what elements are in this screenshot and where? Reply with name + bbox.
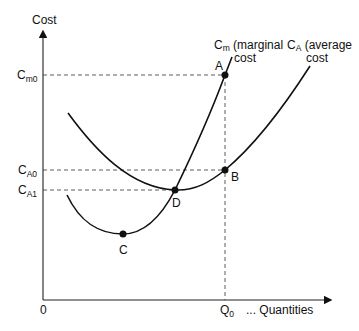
cost-curve-diagram: A B C D Cost 0 ... Quantities Q0 Cm0 CA0… <box>0 0 359 331</box>
point-c-label: C <box>119 243 128 257</box>
average-cost-curve <box>68 66 310 190</box>
origin-label: 0 <box>40 303 47 317</box>
ca1-tick-label: CA1 <box>18 183 37 199</box>
point-b-marker <box>222 167 229 174</box>
q0-tick-label: Q0 <box>220 303 234 319</box>
marginal-cost-label-line2: cost <box>234 51 257 65</box>
y-axis-label: Cost <box>32 13 57 27</box>
ca0-tick-label: CA0 <box>18 163 37 179</box>
point-d-marker <box>172 187 179 194</box>
point-c-marker <box>120 231 127 238</box>
average-cost-label-line2: cost <box>306 51 329 65</box>
point-d-label: D <box>172 196 181 210</box>
cm0-tick-label: Cm0 <box>17 68 38 84</box>
point-b-label: B <box>231 170 239 184</box>
x-axis-label: ... Quantities <box>246 303 313 317</box>
point-a-label: A <box>215 59 223 73</box>
marginal-cost-curve <box>67 57 232 234</box>
